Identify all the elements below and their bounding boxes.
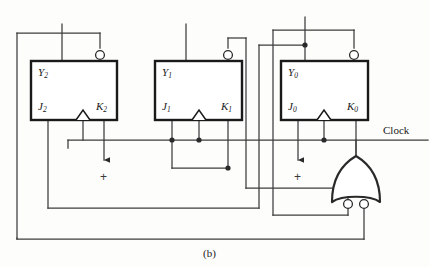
label-input-k2: K2 bbox=[96, 101, 107, 112]
bubble-k1-output bbox=[224, 51, 233, 60]
power-marker-j0: + bbox=[294, 171, 301, 183]
label-state-y0: Y0 bbox=[288, 67, 298, 78]
junction-clock-ff1 bbox=[196, 137, 201, 142]
bubble-gate-input-right bbox=[360, 200, 369, 209]
label-input-k0: K0 bbox=[347, 101, 358, 112]
bubble-k2-output bbox=[96, 51, 105, 60]
label-state-y2: Y2 bbox=[38, 67, 48, 78]
or-gate-body bbox=[332, 156, 380, 202]
power-marker-k2: + bbox=[100, 171, 107, 183]
label-input-j1: J1 bbox=[162, 101, 171, 112]
label-clock: Clock bbox=[383, 125, 409, 136]
junction-j1-clock-cross bbox=[169, 137, 174, 142]
figure-caption: (b) bbox=[203, 247, 216, 259]
label-input-k1: K1 bbox=[221, 101, 232, 112]
junction-y0-tap bbox=[302, 42, 307, 47]
bubble-gate-input-left bbox=[344, 200, 353, 209]
circuit-schematic-svg bbox=[0, 0, 430, 267]
junction-clock-ff0 bbox=[321, 137, 326, 142]
label-input-j2: J2 bbox=[38, 101, 47, 112]
label-state-y1: Y1 bbox=[162, 67, 172, 78]
inversion-bubbles bbox=[96, 51, 359, 60]
junction-k1-bottom bbox=[225, 165, 230, 170]
circuit-figure: Y2 J2 K2 Y1 J1 K1 Y0 J0 K0 Clock + + (b) bbox=[0, 0, 430, 267]
label-input-j0: J0 bbox=[288, 101, 297, 112]
bubble-k0-output bbox=[350, 51, 359, 60]
or-gate-inverted-inputs bbox=[332, 156, 380, 208]
